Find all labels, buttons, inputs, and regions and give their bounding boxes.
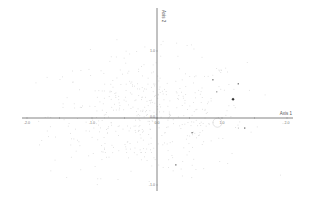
background-point (142, 132, 143, 133)
background-point (96, 123, 97, 124)
background-point (184, 124, 185, 125)
background-point (138, 71, 139, 72)
background-point (115, 92, 116, 93)
background-point (148, 105, 149, 106)
background-point (155, 95, 156, 96)
background-point (108, 128, 109, 129)
background-point (204, 76, 205, 77)
data-point (216, 91, 217, 92)
background-point (155, 159, 156, 160)
background-point (163, 41, 164, 42)
background-point (139, 89, 140, 90)
background-point (134, 86, 135, 87)
background-point (169, 112, 170, 113)
background-point (176, 91, 177, 92)
background-point (187, 45, 188, 46)
background-point (162, 91, 163, 92)
background-point (157, 98, 158, 99)
plot-canvas: -2.0-1.00.01.02.0 1.0-1.00.0 Axis 1 Axis… (0, 0, 309, 201)
background-point (112, 80, 113, 81)
background-point (118, 150, 119, 151)
background-point (146, 115, 147, 116)
background-point (151, 143, 152, 144)
background-point (108, 126, 109, 127)
background-point (70, 145, 71, 146)
background-point (93, 128, 94, 129)
background-point (201, 91, 202, 92)
background-point (211, 101, 212, 102)
x-tick-label: 0.0 (155, 121, 160, 125)
background-point (160, 56, 161, 57)
background-point (143, 148, 144, 149)
background-point (197, 125, 198, 126)
background-point (142, 110, 143, 111)
background-point (160, 106, 161, 107)
background-point (139, 126, 140, 127)
background-point (135, 126, 136, 127)
background-point (149, 181, 150, 182)
background-point (64, 119, 65, 120)
background-point (167, 83, 168, 84)
background-point (150, 149, 151, 150)
background-point (200, 125, 201, 126)
background-point (224, 90, 225, 91)
background-point (119, 110, 120, 111)
background-point (109, 61, 110, 62)
background-point (125, 146, 126, 147)
background-point (127, 141, 128, 142)
background-point (97, 178, 98, 179)
background-point (247, 62, 248, 63)
background-point (139, 120, 140, 121)
background-point (195, 92, 196, 93)
background-point (97, 184, 98, 185)
background-point (227, 110, 228, 111)
background-point (103, 152, 104, 153)
background-point (141, 99, 142, 100)
background-point (135, 130, 136, 131)
background-point (106, 129, 107, 130)
background-point (76, 151, 77, 152)
background-point (101, 159, 102, 160)
background-point (126, 90, 127, 91)
background-point (131, 82, 132, 83)
background-point (201, 102, 202, 103)
background-point (225, 68, 226, 69)
background-point (95, 166, 96, 167)
data-point (212, 79, 213, 80)
background-point (183, 96, 184, 97)
background-point (151, 152, 152, 153)
background-point (173, 170, 174, 171)
background-point (230, 116, 231, 117)
background-point (182, 176, 183, 177)
background-point (136, 51, 137, 52)
background-point (147, 114, 148, 115)
background-point (193, 132, 194, 133)
background-point (107, 132, 108, 133)
background-point (99, 131, 100, 132)
background-point (141, 66, 142, 67)
background-point (111, 107, 112, 108)
background-point (104, 115, 105, 116)
background-point (47, 131, 48, 132)
background-point (219, 161, 220, 162)
background-point (211, 98, 212, 99)
background-point (110, 84, 111, 85)
background-point (208, 123, 209, 124)
background-point (114, 93, 115, 94)
background-point (202, 97, 203, 98)
background-point (189, 136, 190, 137)
background-point (181, 169, 182, 170)
background-point (74, 103, 75, 104)
background-point (172, 141, 173, 142)
background-point (146, 110, 147, 111)
background-point (125, 97, 126, 98)
background-point (142, 75, 143, 76)
background-point (191, 44, 192, 45)
background-point (141, 159, 142, 160)
background-point (129, 130, 130, 131)
background-point (118, 135, 119, 136)
background-point (167, 106, 168, 107)
background-point (192, 165, 193, 166)
background-point (75, 129, 76, 130)
background-point (104, 91, 105, 92)
